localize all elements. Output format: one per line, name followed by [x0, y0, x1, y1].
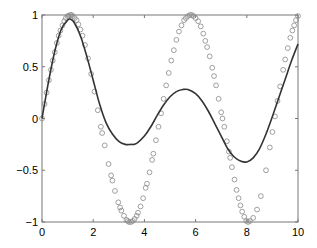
data-point-marker: [238, 203, 243, 208]
data-point-marker: [102, 143, 107, 148]
data-point-marker: [203, 38, 208, 43]
x-tick-label: 0: [39, 226, 45, 238]
data-point-marker: [201, 31, 206, 36]
data-point-marker: [164, 83, 169, 88]
data-point-marker: [228, 155, 233, 160]
data-point-marker: [220, 116, 225, 121]
x-tick-label: 4: [141, 226, 147, 238]
data-point-marker: [264, 168, 269, 173]
data-point-marker: [232, 177, 237, 182]
data-point-marker: [205, 45, 210, 50]
y-tick-label: −1: [25, 216, 38, 228]
data-point-marker: [141, 196, 146, 201]
data-point-marker: [113, 189, 118, 194]
data-point-marker: [255, 207, 260, 212]
data-point-marker: [196, 19, 201, 24]
data-point-marker: [100, 131, 105, 136]
data-point-marker: [147, 170, 152, 175]
x-tick-label: 2: [90, 226, 96, 238]
data-point-marker: [285, 46, 290, 51]
plot-frame: [42, 15, 298, 222]
data-point-marker: [154, 138, 159, 143]
line-chart: 0246810−1−0.500.51: [0, 0, 317, 248]
axes-box: [42, 15, 298, 222]
x-tick-label: 10: [292, 226, 304, 238]
data-point-marker: [150, 158, 155, 163]
data-point-marker: [236, 196, 241, 201]
y-tick-label: 0.5: [23, 61, 38, 73]
data-point-marker: [161, 96, 166, 101]
y-tick-label: 1: [32, 9, 38, 21]
data-point-marker: [156, 124, 161, 129]
data-point-marker: [116, 200, 121, 205]
data-point-marker: [281, 67, 286, 72]
data-point-marker: [216, 96, 221, 101]
y-tick-label: −0.5: [16, 164, 38, 176]
y-tick-label: 0: [32, 113, 38, 125]
data-point-marker: [222, 124, 227, 129]
data-markers: [40, 13, 301, 225]
data-point-marker: [210, 65, 215, 70]
data-point-marker: [136, 210, 141, 215]
data-point-marker: [258, 194, 263, 199]
data-point-marker: [95, 108, 100, 113]
data-point-marker: [212, 74, 217, 79]
data-point-marker: [171, 48, 176, 53]
data-point-marker: [292, 23, 297, 28]
data-point-marker: [109, 173, 114, 178]
data-point-marker: [138, 204, 143, 209]
data-point-marker: [290, 28, 295, 33]
data-point-marker: [177, 29, 182, 34]
data-point-marker: [288, 35, 293, 40]
data-point-marker: [207, 54, 212, 59]
data-point-marker: [198, 24, 203, 29]
data-point-marker: [219, 110, 224, 115]
data-point-marker: [169, 58, 174, 63]
data-point-marker: [166, 71, 171, 76]
data-point-marker: [151, 151, 156, 156]
data-point-marker: [179, 23, 184, 28]
data-point-marker: [119, 208, 124, 213]
data-point-marker: [106, 162, 111, 167]
data-point-marker: [110, 178, 115, 183]
data-point-marker: [98, 124, 103, 129]
data-point-marker: [270, 130, 275, 135]
data-point-marker: [267, 145, 272, 150]
data-point-marker: [240, 209, 245, 214]
x-tick-label: 6: [193, 226, 199, 238]
data-point-marker: [118, 205, 123, 210]
data-point-marker: [251, 215, 256, 220]
fit-line: [42, 19, 298, 162]
data-point-marker: [283, 57, 288, 62]
axis-ticks: [42, 15, 298, 222]
data-point-marker: [230, 165, 235, 170]
data-point-marker: [234, 188, 239, 193]
x-tick-label: 8: [244, 226, 250, 238]
data-point-marker: [214, 83, 219, 88]
data-point-marker: [174, 37, 179, 42]
